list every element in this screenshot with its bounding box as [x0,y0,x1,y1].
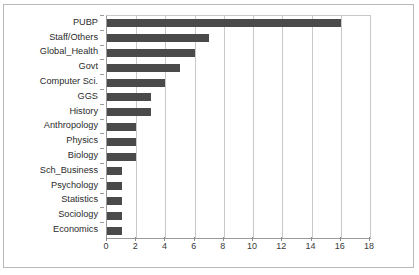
bar [107,64,180,72]
chart-frame: PUBPStaff/OthersGlobal_HealthGovtCompute… [3,4,414,268]
x-axis-tick-label: 0 [103,241,108,251]
bar-row [107,105,370,120]
x-axis-tick-label: 14 [306,241,316,251]
y-axis-label: GGS [4,89,103,104]
bar-row [107,46,370,61]
x-axis-tick-label: 18 [364,241,374,251]
y-axis-label: Sociology [4,207,103,222]
bar [107,108,151,116]
x-axis-ticks: 024681012141618 [106,237,369,243]
bar-row [107,90,370,105]
bar [107,182,122,190]
y-axis-label: Economics [4,222,103,237]
bar-row [107,164,370,179]
bar-row [107,120,370,135]
bar-row [107,149,370,164]
y-axis-label: Global_Health [4,45,103,60]
bar [107,138,136,146]
bar [107,167,122,175]
bar [107,93,151,101]
y-axis-label: Physics [4,133,103,148]
y-axis-label: History [4,104,103,119]
bar-row [107,179,370,194]
y-axis-label: Govt [4,59,103,74]
x-axis-tick-label: 4 [162,241,167,251]
bar-row [107,208,370,223]
bar [107,19,341,27]
bar-row [107,75,370,90]
bar-series [107,16,370,238]
x-axis-tick-label: 2 [133,241,138,251]
bar [107,153,136,161]
gridline [370,16,371,238]
x-axis-tick-label: 10 [247,241,257,251]
bar-row [107,31,370,46]
y-axis-label: Statistics [4,193,103,208]
y-axis-label: Computer Sci. [4,74,103,89]
bar [107,123,136,131]
chart-plot-wrapper: PUBPStaff/OthersGlobal_HealthGovtCompute… [4,5,413,267]
bar [107,49,195,57]
y-axis-label: Anthropology [4,119,103,134]
bar [107,197,122,205]
bar [107,34,209,42]
y-axis-label: Staff/Others [4,30,103,45]
y-axis-label: Biology [4,148,103,163]
bar-row [107,60,370,75]
bar [107,227,122,235]
bar [107,212,122,220]
y-axis-label: Psychology [4,178,103,193]
bar-row [107,16,370,31]
bar-row [107,134,370,149]
bar-row [107,223,370,238]
y-axis-category-labels: PUBPStaff/OthersGlobal_HealthGovtCompute… [4,15,103,237]
plot-area [106,15,371,239]
y-axis-label: Sch_Business [4,163,103,178]
x-axis-tick-label: 12 [276,241,286,251]
x-axis-tick-label: 16 [335,241,345,251]
bar-row [107,194,370,209]
bar [107,79,165,87]
x-axis-tick-label: 6 [191,241,196,251]
x-axis-tick-label: 8 [220,241,225,251]
y-axis-label: PUBP [4,15,103,30]
